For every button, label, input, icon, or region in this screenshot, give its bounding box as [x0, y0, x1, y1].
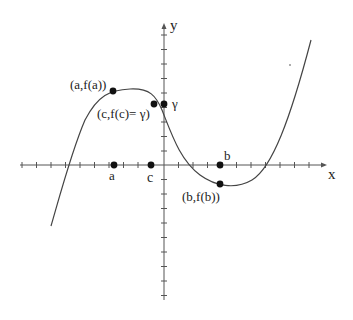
- x-axis-label: x: [328, 166, 336, 182]
- function-curve: [51, 40, 311, 226]
- x-axis-arrow-icon: [321, 163, 327, 168]
- label-fa: (a,f(a)): [70, 77, 106, 92]
- point-b: [217, 162, 224, 169]
- stray-dot: [289, 64, 291, 66]
- ivt-diagram: y x (a,f(a)) (c,f(c)= γ) γ (b,f(b)) a c …: [0, 0, 353, 320]
- label-fb: (b,f(b)): [182, 189, 220, 204]
- x-axis: [20, 162, 327, 168]
- label-b: b: [224, 148, 231, 163]
- point-c: [148, 162, 155, 169]
- y-axis-arrow-icon: [162, 23, 167, 29]
- label-gamma: γ: [171, 96, 178, 111]
- point-fb: [217, 181, 224, 188]
- point-fa: [110, 88, 117, 95]
- point-fc: [151, 101, 158, 108]
- label-fc: (c,f(c)= γ): [97, 106, 150, 121]
- y-axis: [161, 23, 167, 300]
- y-axis-label: y: [170, 17, 178, 33]
- point-gamma: [161, 101, 168, 108]
- label-c: c: [147, 170, 153, 185]
- label-a: a: [109, 168, 115, 183]
